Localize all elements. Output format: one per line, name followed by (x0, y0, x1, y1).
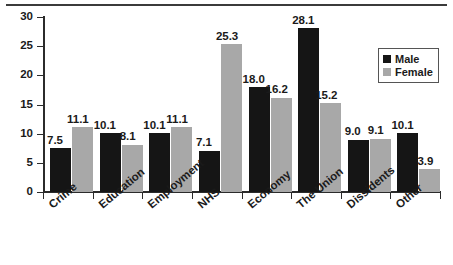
legend-swatch-male-icon (383, 55, 391, 63)
bar-value-label-female: 9.1 (368, 125, 384, 137)
bar-value-label-male: 10.1 (391, 120, 413, 132)
top-divider-rule (6, 4, 447, 6)
bar-value-label-male: 10.1 (94, 120, 116, 132)
plot-area: 7.511.110.18.110.111.17.125.318.016.228.… (43, 17, 440, 192)
y-tick-label-20: 20 (0, 69, 33, 81)
bar-value-label-female: 3.9 (417, 156, 433, 168)
bar-value-label-female: 11.1 (67, 114, 89, 126)
bar-value-label-female: 8.1 (120, 131, 136, 143)
bar-value-label-male: 18.0 (243, 74, 265, 86)
x-tick-8 (440, 192, 441, 199)
bar-group: 10.111.1 (142, 17, 192, 192)
bar-value-label-male: 10.1 (143, 120, 165, 132)
y-tick-label-0: 0 (0, 186, 33, 198)
x-tick-0 (43, 192, 44, 199)
x-tick-5 (291, 192, 292, 199)
x-tick-4 (242, 192, 243, 199)
bar-group: 10.13.9 (390, 17, 440, 192)
y-tick-label-5: 5 (0, 157, 33, 169)
bar-value-label-male: 9.0 (345, 126, 361, 138)
bar-group: 28.115.2 (291, 17, 341, 192)
legend-swatch-female-icon (383, 68, 391, 76)
bar-male[interactable] (249, 87, 270, 192)
bar-male[interactable] (199, 151, 220, 192)
bar-value-label-female: 25.3 (216, 31, 238, 43)
bar-value-label-female: 11.1 (166, 114, 188, 126)
bar-group: 18.016.2 (242, 17, 292, 192)
bar-male[interactable] (298, 28, 319, 192)
y-tick-label-30: 30 (0, 11, 33, 23)
legend-label-female: Female (395, 67, 433, 78)
legend-item-female[interactable]: Female (383, 66, 433, 78)
x-tick-7 (390, 192, 391, 199)
bar-female[interactable] (221, 44, 242, 192)
bar-group: 10.18.1 (93, 17, 143, 192)
legend-label-male: Male (395, 54, 419, 65)
bar-value-label-male: 7.1 (196, 137, 212, 149)
bar-value-label-male: 28.1 (292, 15, 314, 27)
y-tick-label-25: 25 (0, 40, 33, 52)
y-tick-label-10: 10 (0, 128, 33, 140)
bar-group: 7.511.1 (43, 17, 93, 192)
bar-group: 9.09.1 (341, 17, 391, 192)
chart-figure: 051015202530 7.511.110.18.110.111.17.125… (0, 0, 453, 265)
x-tick-6 (341, 192, 342, 199)
bar-value-label-female: 15.2 (315, 90, 337, 102)
bar-value-label-male: 7.5 (47, 135, 63, 147)
legend-item-male[interactable]: Male (383, 53, 433, 65)
bar-female[interactable] (72, 127, 93, 192)
bar-value-label-female: 16.2 (266, 84, 288, 96)
chart-legend: Male Female (378, 48, 439, 83)
y-tick-label-15: 15 (0, 99, 33, 111)
x-tick-2 (142, 192, 143, 199)
x-tick-3 (192, 192, 193, 199)
x-tick-1 (93, 192, 94, 199)
